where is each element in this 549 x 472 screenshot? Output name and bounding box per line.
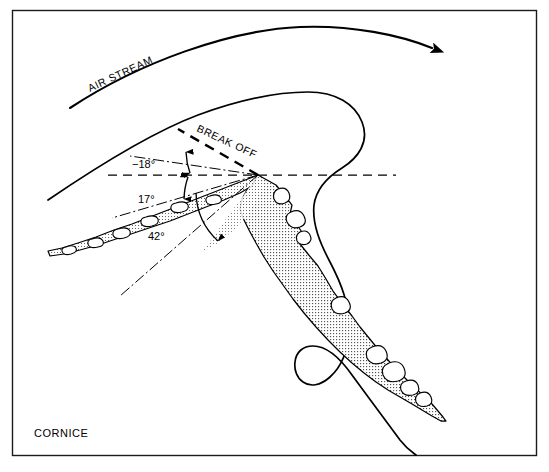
cornice-figure: AIR STREAM BREAK OFF −18° 17° 42° CORNIC… (0, 0, 549, 472)
snow-block (113, 228, 131, 239)
angle-label-42: 42° (148, 230, 165, 242)
snow-block (141, 216, 159, 227)
snow-block (331, 297, 350, 314)
snow-block (366, 346, 387, 364)
snow-block (382, 362, 405, 382)
snow-block (401, 380, 419, 395)
snow-block (416, 392, 432, 406)
snow-block (171, 202, 189, 213)
snow-block (62, 246, 77, 255)
snow-block (88, 238, 104, 248)
snow-block (286, 211, 305, 228)
snow-block (274, 188, 290, 204)
snow-block (296, 231, 311, 245)
snow-block (206, 195, 222, 205)
angle-label-minus18: −18° (132, 158, 155, 170)
cornice-caption: CORNICE (34, 427, 88, 439)
angle-label-17: 17° (138, 193, 155, 205)
diagram-canvas: AIR STREAM BREAK OFF −18° 17° 42° CORNIC… (0, 0, 549, 472)
